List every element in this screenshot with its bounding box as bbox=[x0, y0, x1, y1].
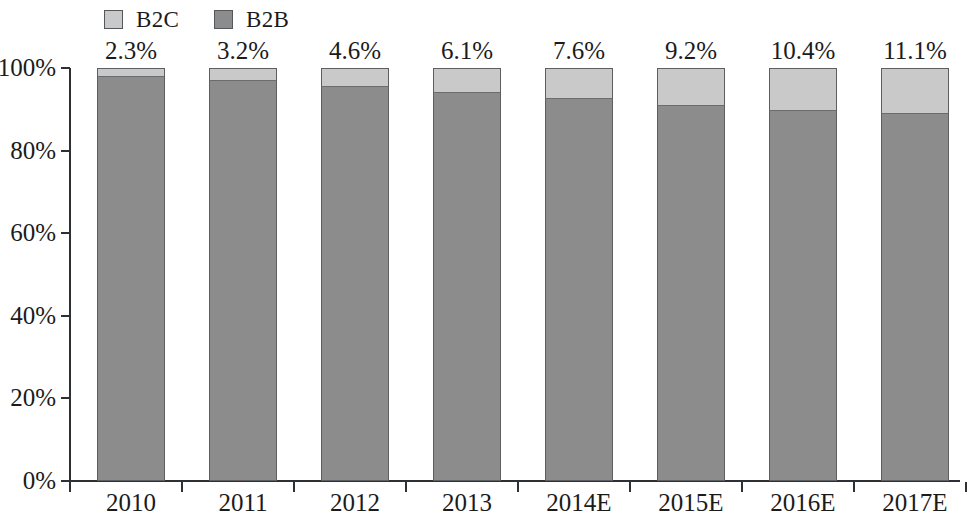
bar-segment-b2b[interactable] bbox=[209, 81, 277, 481]
plot-area: 100%80%60%40%20%0% 20102011201220132014E… bbox=[0, 0, 973, 519]
bar-segment-b2b[interactable] bbox=[97, 77, 165, 481]
y-axis-tick bbox=[61, 397, 70, 399]
bar-column[interactable] bbox=[657, 68, 725, 481]
bar-column[interactable] bbox=[433, 68, 501, 481]
x-axis-tick-label: 2012 bbox=[299, 489, 411, 517]
y-axis-tick-label: 0% bbox=[0, 468, 56, 493]
bar-segment-b2b[interactable] bbox=[657, 106, 725, 481]
bar-segment-b2c[interactable] bbox=[97, 68, 165, 77]
bar-segment-b2c[interactable] bbox=[545, 68, 613, 99]
bar-value-label: 11.1% bbox=[851, 38, 973, 63]
bar-column[interactable] bbox=[321, 68, 389, 481]
x-axis-tick bbox=[293, 482, 295, 492]
bar-segment-b2c[interactable] bbox=[881, 68, 949, 114]
bar-segment-b2b[interactable] bbox=[769, 111, 837, 481]
bar-segment-b2c[interactable] bbox=[657, 68, 725, 106]
y-axis-tick-label: 20% bbox=[0, 385, 56, 410]
bar-segment-b2b[interactable] bbox=[321, 87, 389, 481]
bar-segment-b2c[interactable] bbox=[209, 68, 277, 81]
bar-segment-b2c[interactable] bbox=[433, 68, 501, 93]
x-axis-tick-label: 2016E bbox=[747, 489, 859, 517]
x-axis-tick bbox=[853, 482, 855, 492]
x-axis-tick-label: 2013 bbox=[411, 489, 523, 517]
bar-value-label: 10.4% bbox=[739, 38, 867, 63]
bar-value-label: 6.1% bbox=[403, 38, 531, 63]
bar-value-label: 7.6% bbox=[515, 38, 643, 63]
bar-column[interactable] bbox=[769, 68, 837, 481]
y-axis-line bbox=[69, 68, 71, 482]
y-axis-tick bbox=[61, 232, 70, 234]
x-axis-tick bbox=[69, 482, 71, 492]
x-axis-tick bbox=[181, 482, 183, 492]
stacked-bar-chart: B2C B2B 100%80%60%40%20%0% 2010201120122… bbox=[0, 0, 973, 519]
x-axis-tick bbox=[405, 482, 407, 492]
bar-segment-b2c[interactable] bbox=[769, 68, 837, 111]
bar-column[interactable] bbox=[209, 68, 277, 481]
bar-segment-b2c[interactable] bbox=[321, 68, 389, 87]
y-axis-tick-label: 60% bbox=[0, 220, 56, 245]
bar-column[interactable] bbox=[545, 68, 613, 481]
y-axis-tick-label: 40% bbox=[0, 303, 56, 328]
x-axis-tick bbox=[629, 482, 631, 492]
y-axis-tick bbox=[61, 315, 70, 317]
bar-column[interactable] bbox=[97, 68, 165, 481]
bar-column[interactable] bbox=[881, 68, 949, 481]
x-axis-tick-label: 2017E bbox=[859, 489, 971, 517]
bar-segment-b2b[interactable] bbox=[881, 114, 949, 481]
x-axis-tick-label: 2015E bbox=[635, 489, 747, 517]
y-axis-tick-label: 100% bbox=[0, 55, 56, 80]
x-axis-tick-label: 2014E bbox=[523, 489, 635, 517]
bar-value-label: 3.2% bbox=[179, 38, 307, 63]
x-axis-tick bbox=[965, 482, 967, 492]
bar-value-label: 9.2% bbox=[627, 38, 755, 63]
y-axis-tick bbox=[61, 150, 70, 152]
bar-segment-b2b[interactable] bbox=[433, 93, 501, 481]
bar-value-label: 4.6% bbox=[291, 38, 419, 63]
x-axis-tick-label: 2011 bbox=[187, 489, 299, 517]
bar-value-label: 2.3% bbox=[67, 38, 195, 63]
y-axis-tick bbox=[61, 67, 70, 69]
x-axis-tick bbox=[517, 482, 519, 492]
x-axis-tick-label: 2010 bbox=[75, 489, 187, 517]
y-axis-tick-label: 80% bbox=[0, 138, 56, 163]
bar-segment-b2b[interactable] bbox=[545, 99, 613, 481]
x-axis-tick bbox=[741, 482, 743, 492]
